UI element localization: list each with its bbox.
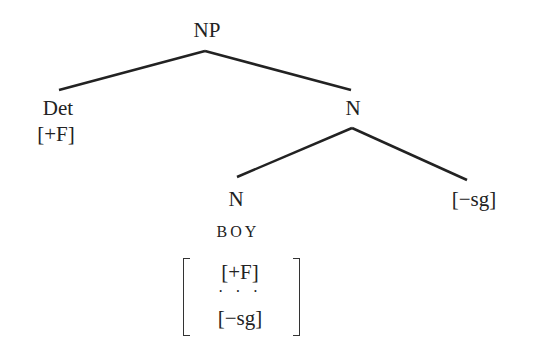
det-feature: [+F] — [37, 124, 75, 145]
lexeme-boy: BOY — [217, 224, 260, 240]
edge-n-nboy — [237, 128, 352, 177]
node-sg: [−sg] — [452, 189, 497, 210]
matrix-row-sg: [−sg] — [180, 308, 300, 329]
node-np: NP — [194, 20, 221, 41]
edge-np-n — [205, 51, 351, 90]
matrix-row-f: [+F] — [180, 262, 300, 283]
edge-np-det — [59, 51, 205, 90]
node-det: Det — [43, 98, 73, 119]
matrix-row-ellipsis: · · · — [180, 284, 300, 300]
node-n-upper: N — [345, 98, 360, 119]
edge-n-sg — [352, 128, 467, 180]
node-n-lower: N — [228, 189, 243, 210]
feature-matrix: [+F] · · · [−sg] — [180, 258, 300, 334]
